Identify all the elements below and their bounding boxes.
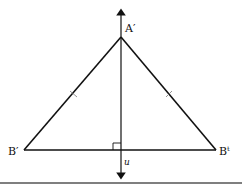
label-left-vertex: B′ [8, 145, 19, 158]
label-axis: u [124, 157, 130, 167]
right-angle-mark [113, 143, 121, 150]
triangle-diagram: A′ B′ Bᵗ u [0, 0, 242, 189]
side-right [121, 37, 216, 150]
label-right-vertex: Bᵗ [219, 145, 230, 158]
label-apex: A′ [124, 22, 136, 35]
